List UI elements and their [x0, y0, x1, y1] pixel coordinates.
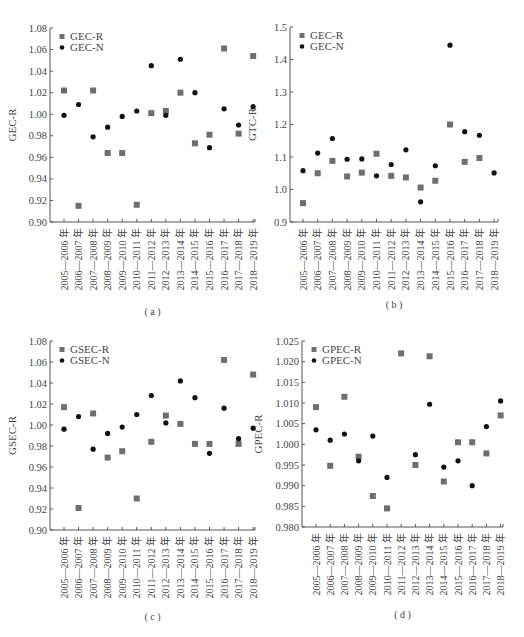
- data-point-square: [177, 90, 183, 96]
- y-tick-label: 1.06: [29, 357, 47, 368]
- data-point-square: [236, 131, 242, 137]
- y-axis-label: GSEC-R: [6, 415, 18, 455]
- y-tick-label: 0.98: [29, 441, 47, 452]
- data-point-circle: [370, 433, 375, 438]
- legend-label: GPEC-N: [322, 354, 362, 366]
- x-tick-label: 2016—2017 年: [218, 536, 230, 599]
- figure-charts: 0.900.920.940.960.981.001.021.041.061.08…: [0, 0, 524, 637]
- data-point-square: [418, 185, 424, 191]
- x-tick-label: 2009—2010 年: [355, 228, 367, 291]
- data-point-circle: [477, 133, 482, 138]
- chart-panel-c: 0.900.920.940.960.981.001.021.041.061.08…: [6, 336, 259, 624]
- y-tick-label: 1.02: [29, 399, 47, 410]
- y-tick-label: 1.2: [274, 119, 287, 130]
- data-point-square: [105, 150, 111, 156]
- x-tick-label: 2013—2014 年: [174, 536, 186, 599]
- data-point-circle: [207, 451, 212, 456]
- y-tick-label: 0.995: [275, 460, 299, 471]
- data-point-square: [134, 202, 140, 208]
- y-tick-label: 0.985: [275, 501, 299, 512]
- x-tick-label: 2016—2017 年: [466, 533, 478, 596]
- data-point-circle: [61, 113, 66, 118]
- x-tick-label: 2007—2008 年: [87, 536, 99, 599]
- data-point-circle: [447, 43, 452, 48]
- data-point-circle: [178, 57, 183, 62]
- x-tick-label: 2016—2017 年: [218, 228, 230, 291]
- y-tick-label: 1.000: [275, 439, 299, 450]
- data-point-circle: [441, 464, 446, 469]
- x-tick-label: 2015—2016 年: [203, 228, 215, 291]
- legend-circle-icon: [312, 358, 317, 363]
- data-point-square: [300, 200, 306, 206]
- y-tick-label: 0.92: [29, 504, 47, 515]
- data-point-circle: [91, 447, 96, 452]
- x-tick-label: 2014—2015 年: [437, 533, 449, 596]
- data-point-square: [374, 151, 380, 157]
- y-tick-label: 1.04: [29, 378, 48, 389]
- data-point-square: [105, 455, 111, 461]
- data-point-circle: [345, 157, 350, 162]
- x-tick-label: 2014—2015 年: [429, 228, 441, 291]
- x-tick-label: 2005—2006 年: [58, 536, 70, 599]
- y-tick-label: 0.90: [29, 525, 47, 536]
- y-tick-label: 0.94: [29, 173, 48, 184]
- y-tick-label: 1.00: [29, 420, 47, 431]
- legend-square-icon: [60, 347, 65, 352]
- data-point-square: [432, 178, 438, 184]
- x-tick-label: 2017—2018 年: [480, 533, 492, 596]
- data-point-circle: [492, 170, 497, 175]
- data-point-circle: [356, 458, 361, 463]
- data-point-square: [441, 479, 447, 485]
- data-point-square: [384, 505, 390, 511]
- y-tick-label: 0.98: [29, 130, 47, 141]
- y-tick-label: 1.08: [29, 336, 47, 347]
- legend-label: GEC-N: [70, 41, 104, 53]
- data-point-square: [207, 441, 213, 447]
- data-point-circle: [236, 122, 241, 127]
- data-point-circle: [76, 414, 81, 419]
- data-point-circle: [236, 436, 241, 441]
- data-point-circle: [359, 156, 364, 161]
- panel-caption: ( d ): [394, 609, 411, 621]
- y-tick-label: 1.08: [29, 23, 47, 34]
- y-tick-label: 0.9: [274, 217, 287, 228]
- y-tick-label: 1.3: [274, 87, 287, 98]
- data-point-square: [76, 203, 82, 209]
- data-point-circle: [433, 163, 438, 168]
- y-tick-label: 0.990: [275, 480, 299, 491]
- x-tick-label: 2009—2010 年: [116, 228, 128, 291]
- x-tick-label: 2006—2007 年: [324, 533, 336, 596]
- chart-panel-d: 0.9800.9850.9900.9951.0001.0051.0101.015…: [252, 336, 506, 622]
- data-point-circle: [427, 402, 432, 407]
- data-point-circle: [462, 129, 467, 134]
- data-point-square: [327, 463, 333, 469]
- data-point-square: [412, 462, 418, 468]
- data-point-circle: [149, 393, 154, 398]
- panel-caption: ( b ): [386, 299, 403, 311]
- x-tick-label: 2012—2013 年: [409, 533, 421, 596]
- data-point-circle: [76, 102, 81, 107]
- data-point-square: [148, 110, 154, 116]
- x-tick-label: 2011—2012 年: [145, 228, 157, 290]
- data-point-square: [476, 155, 482, 161]
- data-point-circle: [192, 90, 197, 95]
- legend-circle-icon: [300, 44, 305, 49]
- data-point-square: [119, 448, 125, 454]
- data-point-square: [344, 174, 350, 180]
- y-tick-label: 0.94: [29, 483, 48, 494]
- y-axis-label: GEC-R: [6, 108, 18, 142]
- chart-panel-a: 0.900.920.940.960.981.001.021.041.061.08…: [6, 23, 259, 319]
- x-tick-label: 2007—2008 年: [87, 228, 99, 291]
- x-tick-label: 2007—2008 年: [326, 228, 338, 291]
- data-point-circle: [389, 162, 394, 167]
- x-tick-label: 2013—2014 年: [174, 228, 186, 291]
- x-tick-label: 2017—2018 年: [473, 228, 485, 291]
- x-tick-label: 2015—2016 年: [452, 533, 464, 596]
- x-tick-label: 2005—2006 年: [310, 533, 322, 596]
- x-tick-label: 2009—2010 年: [116, 536, 128, 599]
- data-point-square: [329, 158, 335, 164]
- data-point-square: [447, 122, 453, 128]
- data-point-square: [221, 357, 227, 363]
- data-point-circle: [163, 113, 168, 118]
- y-tick-label: 1.06: [29, 44, 47, 55]
